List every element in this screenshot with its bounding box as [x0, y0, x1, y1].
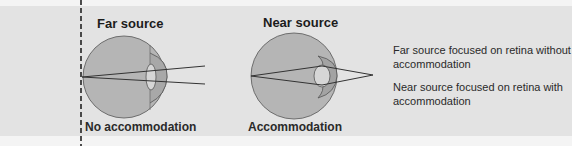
legend-near-source: Near source focused on retina with accom…: [393, 80, 572, 108]
near-source-eye-icon: [251, 33, 373, 119]
no-accommodation-caption: No accommodation: [85, 120, 196, 134]
legend-far-source: Far source focused on retina without acc…: [393, 43, 572, 71]
far-source-eye-icon: [82, 36, 205, 118]
far-source-title: Far source: [97, 16, 163, 31]
near-source-title: Near source: [263, 15, 338, 30]
accommodation-caption: Accommodation: [248, 120, 342, 134]
